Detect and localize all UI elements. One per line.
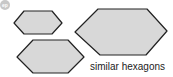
- large-hexagon: [75, 9, 167, 55]
- caption-label: similar hexagons: [90, 61, 165, 72]
- small-hexagon: [14, 11, 62, 34]
- medium-hexagon: [17, 40, 84, 73]
